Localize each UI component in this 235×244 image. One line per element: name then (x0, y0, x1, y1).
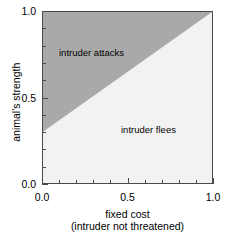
chart-figure: intruder attacks intruder flees 0.00.51.… (0, 0, 235, 244)
x-axis-title-block: fixed cost (intruder not threatened) (42, 208, 213, 233)
x-axis-title: fixed cost (42, 208, 213, 220)
x-tick-label: 0.5 (120, 192, 135, 203)
x-tick-label: 0.0 (35, 192, 50, 203)
x-tick-label: 1.0 (206, 192, 221, 203)
y-axis-title: animal's strength (11, 42, 22, 162)
x-axis-subtitle: (intruder not threatened) (42, 220, 213, 233)
